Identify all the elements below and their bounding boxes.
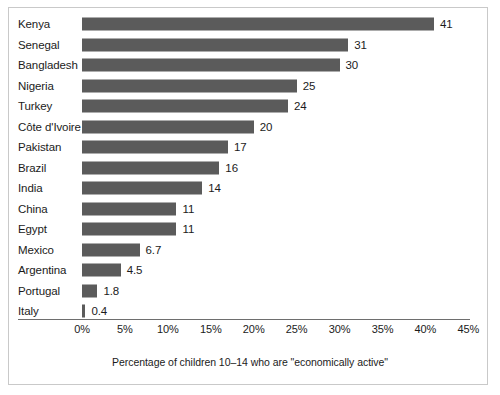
chart-page: Kenya41Senegal31Bangladesh30Nigeria25Tur…	[0, 0, 500, 395]
x-tick-label: 40%	[415, 323, 437, 335]
bar-row: Senegal31	[0, 35, 500, 56]
bar-value-label: 20	[260, 121, 273, 133]
category-label: India	[18, 182, 42, 194]
bar-row: Portugal1.8	[0, 281, 500, 302]
bar-value-label: 25	[303, 80, 316, 92]
bar-value-label: 0.4	[91, 305, 107, 317]
category-label: Kenya	[18, 18, 50, 30]
bar-row: Argentina4.5	[0, 260, 500, 281]
bar-row: India14	[0, 178, 500, 199]
x-axis-tick-labels: 0%5%10%15%20%25%30%35%40%45%	[0, 323, 500, 339]
bar-value-label: 11	[182, 223, 194, 235]
bar-value-label: 24	[294, 100, 307, 112]
category-label: Côte d'Ivoire	[18, 121, 81, 133]
category-label: Argentina	[18, 264, 66, 276]
category-label: Mexico	[18, 244, 54, 256]
bar-value-label: 16	[225, 162, 238, 174]
bar-row: Côte d'Ivoire20	[0, 117, 500, 138]
bar-value-label: 6.7	[146, 244, 162, 256]
bar-row: Pakistan17	[0, 137, 500, 158]
bar-value-label: 41	[440, 18, 453, 30]
bar	[82, 59, 340, 72]
x-tick-label: 10%	[157, 323, 179, 335]
bar-row: Mexico6.7	[0, 240, 500, 261]
category-label: China	[18, 203, 48, 215]
bar-chart: Kenya41Senegal31Bangladesh30Nigeria25Tur…	[0, 0, 500, 395]
category-label: Pakistan	[18, 141, 61, 153]
x-tick-label: 35%	[372, 323, 394, 335]
x-axis-line	[18, 319, 470, 320]
bar-value-label: 4.5	[127, 264, 143, 276]
bar-value-label: 11	[182, 203, 194, 215]
x-tick-label: 5%	[117, 323, 133, 335]
bar-row: Brazil16	[0, 158, 500, 179]
bar	[82, 120, 254, 133]
category-label: Egypt	[18, 223, 47, 235]
category-label: Nigeria	[18, 80, 54, 92]
x-tick-label: 25%	[286, 323, 308, 335]
category-label: Italy	[18, 305, 39, 317]
bar-value-label: 1.8	[103, 285, 119, 297]
x-tick-label: 20%	[243, 323, 265, 335]
bar-value-label: 14	[208, 182, 221, 194]
bar	[82, 79, 297, 92]
x-tick-label: 30%	[329, 323, 351, 335]
category-label: Portugal	[18, 285, 60, 297]
bar-row: Turkey24	[0, 96, 500, 117]
bar	[82, 284, 97, 297]
bar	[82, 141, 228, 154]
category-label: Brazil	[18, 162, 46, 174]
x-axis-caption: Percentage of children 10–14 who are "ec…	[0, 356, 500, 368]
bar	[82, 161, 219, 174]
bar	[82, 38, 348, 51]
category-label: Turkey	[18, 100, 52, 112]
category-label: Senegal	[18, 39, 60, 51]
bar	[82, 264, 121, 277]
x-tick-label: 45%	[457, 323, 479, 335]
bar	[82, 18, 434, 31]
bar	[82, 305, 85, 318]
bar	[82, 182, 202, 195]
bar	[82, 100, 288, 113]
x-tick-label: 0%	[74, 323, 90, 335]
bar	[82, 223, 176, 236]
bar	[82, 202, 176, 215]
bar	[82, 243, 140, 256]
x-tick-label: 15%	[200, 323, 222, 335]
bar-row: Egypt11	[0, 219, 500, 240]
bar-value-label: 31	[354, 39, 367, 51]
bar-row: China11	[0, 199, 500, 220]
bar-row: Kenya41	[0, 14, 500, 35]
bar-value-label: 17	[234, 141, 247, 153]
bar-row: Nigeria25	[0, 76, 500, 97]
bar-row: Bangladesh30	[0, 55, 500, 76]
category-label: Bangladesh	[18, 59, 78, 71]
bar-value-label: 30	[346, 59, 359, 71]
